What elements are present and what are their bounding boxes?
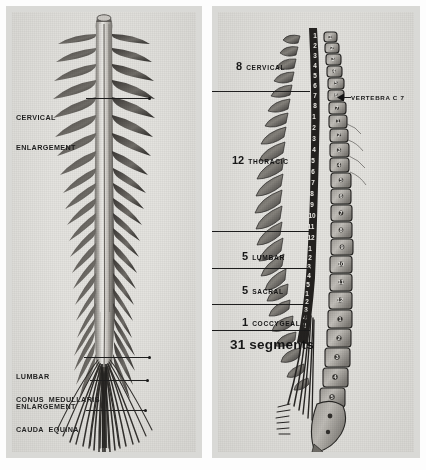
svg-text:3: 3 — [312, 135, 316, 142]
svg-text:2: 2 — [308, 254, 312, 261]
label-cauda-equina: CAUDA EQUINA — [16, 405, 79, 455]
label-cauda-equina-line1: CAUDA EQUINA — [16, 425, 79, 435]
svg-text:12: 12 — [307, 234, 315, 241]
svg-text:2: 2 — [330, 45, 333, 51]
segment-row-thoracic: 12THORACIC — [232, 150, 289, 168]
svg-text:1: 1 — [312, 113, 316, 120]
svg-text:3: 3 — [331, 56, 334, 62]
segment-count-cervical: 8 — [236, 60, 242, 72]
segment-row-cervical: 8CERVICAL — [236, 56, 285, 74]
svg-text:1: 1 — [313, 32, 317, 39]
svg-text:4: 4 — [313, 62, 317, 69]
right-panel-inner: 123 456 78 123 456 789 101112 123 45 123… — [218, 12, 414, 452]
svg-text:8: 8 — [310, 190, 314, 197]
svg-text:11: 11 — [308, 223, 315, 230]
svg-text:2: 2 — [337, 335, 340, 341]
total-segments-label: 31 segments — [230, 337, 314, 352]
segment-count-coccygeal: 1 — [242, 316, 248, 328]
segment-name-coccygeal: COCCYGEAL — [252, 320, 300, 327]
svg-text:8: 8 — [339, 227, 342, 233]
svg-text:2: 2 — [337, 132, 340, 138]
svg-text:3: 3 — [335, 354, 338, 360]
svg-text:9: 9 — [310, 201, 314, 208]
leader-dot-cervical — [148, 97, 151, 100]
svg-text:1: 1 — [338, 316, 341, 322]
svg-text:7: 7 — [339, 210, 342, 216]
svg-text:6: 6 — [339, 193, 342, 199]
divider-total — [212, 330, 310, 331]
divider-sacral-coccygeal — [212, 304, 310, 305]
left-panel: CERVICAL ENLARGEMENT LUMBAR ENLARGEMENT … — [6, 6, 202, 458]
segment-name-lumbar: LUMBAR — [252, 254, 285, 261]
svg-text:4: 4 — [312, 146, 316, 153]
svg-text:9: 9 — [340, 244, 343, 250]
leader-lumbar — [84, 357, 150, 358]
svg-text:1: 1 — [328, 34, 331, 40]
svg-text:7: 7 — [311, 179, 315, 186]
left-panel-inner: CERVICAL ENLARGEMENT LUMBAR ENLARGEMENT … — [12, 12, 196, 452]
leader-dot-conus — [146, 379, 149, 382]
svg-text:12: 12 — [337, 297, 343, 303]
svg-text:5: 5 — [334, 80, 337, 86]
segment-row-lumbar: 5LUMBAR — [242, 246, 285, 264]
svg-text:1: 1 — [308, 245, 312, 252]
svg-text:2: 2 — [313, 42, 317, 49]
label-conus-medullaris-line1: CONUS MEDULLARIS — [16, 395, 100, 405]
segment-count-sacral: 5 — [242, 284, 248, 296]
figure-sheet: CERVICAL ENLARGEMENT LUMBAR ENLARGEMENT … — [0, 0, 426, 470]
label-cervical-enlargement-line2: ENLARGEMENT — [16, 143, 76, 153]
svg-text:1: 1 — [336, 118, 339, 124]
label-vertebra-c7: VERTEBRA C 7 — [351, 94, 405, 101]
svg-text:2: 2 — [312, 124, 316, 131]
svg-text:5: 5 — [306, 281, 310, 288]
divider-thoracic-lumbar — [212, 231, 310, 232]
svg-text:8: 8 — [313, 102, 317, 109]
divider-lumbar-sacral — [212, 268, 310, 269]
segment-name-cervical: CERVICAL — [246, 64, 285, 71]
leader-dot-cauda — [144, 409, 147, 412]
label-cervical-enlargement: CERVICAL ENLARGEMENT — [16, 93, 76, 173]
svg-text:5: 5 — [330, 394, 333, 400]
svg-text:1: 1 — [305, 290, 309, 297]
label-cervical-enlargement-line1: CERVICAL — [16, 113, 76, 123]
svg-text:5: 5 — [313, 72, 317, 79]
svg-text:10: 10 — [338, 261, 344, 267]
segment-name-sacral: SACRAL — [252, 288, 284, 295]
segment-count-lumbar: 5 — [242, 250, 248, 262]
svg-text:10: 10 — [308, 212, 316, 219]
svg-text:3: 3 — [313, 52, 317, 59]
segment-count-thoracic: 12 — [232, 154, 244, 166]
svg-text:7: 7 — [335, 105, 338, 111]
svg-text:4: 4 — [307, 272, 311, 279]
right-panel: 123 456 78 123 456 789 101112 123 45 123… — [212, 6, 420, 458]
svg-text:3: 3 — [337, 147, 340, 153]
svg-text:11: 11 — [338, 279, 344, 285]
svg-text:5: 5 — [339, 177, 342, 183]
svg-text:7: 7 — [313, 92, 317, 99]
svg-text:6: 6 — [311, 168, 315, 175]
segment-row-sacral: 5SACRAL — [242, 280, 284, 298]
segment-name-thoracic: THORACIC — [248, 158, 288, 165]
arrow-left-icon — [337, 93, 345, 102]
svg-text:5: 5 — [311, 157, 315, 164]
leader-dot-lumbar — [148, 356, 151, 359]
leader-cervical — [86, 98, 150, 99]
segment-row-coccygeal: 1COCCYGEAL — [242, 312, 301, 330]
svg-text:6: 6 — [313, 82, 317, 89]
divider-cervical-thoracic — [212, 91, 310, 92]
